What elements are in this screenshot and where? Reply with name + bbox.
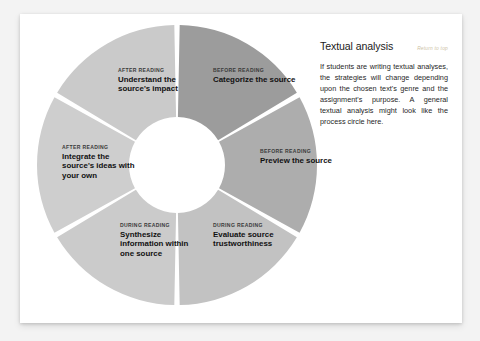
segment-kicker: AFTER READING [62,144,142,150]
textual-analysis-panel: Textual analysis Return to top If studen… [320,40,448,127]
segment-title: Preview the source [260,156,340,166]
content-card: AFTER READING Understand the source's im… [20,14,462,323]
process-circle-diagram: AFTER READING Understand the source's im… [36,24,318,306]
segment-kicker: BEFORE READING [213,67,299,73]
segment-label-evaluate[interactable]: DURING READING Evaluate source trustwort… [213,222,297,249]
page-root: AFTER READING Understand the source's im… [0,0,480,341]
segment-label-integrate[interactable]: AFTER READING Integrate the source's ide… [62,144,142,181]
segment-label-preview[interactable]: BEFORE READING Preview the source [260,148,340,165]
panel-body-text: If students are writing textual analyses… [320,61,448,127]
segment-label-synthesize[interactable]: DURING READING Synthesize information wi… [120,222,190,259]
segment-label-categorize[interactable]: BEFORE READING Categorize the source [213,67,299,84]
segment-kicker: DURING READING [213,222,297,228]
segment-kicker: AFTER READING [118,67,210,73]
segment-title: Integrate the source's ideas with your o… [62,152,142,182]
segment-title: Understand the source's impact [118,75,210,95]
panel-header: Textual analysis Return to top [320,40,448,52]
segment-label-understand[interactable]: AFTER READING Understand the source's im… [118,67,210,94]
return-to-top-link[interactable]: Return to top [417,46,448,51]
segment-kicker: DURING READING [120,222,190,228]
segment-title: Evaluate source trustworthiness [213,230,297,250]
segment-kicker: BEFORE READING [260,148,340,154]
page-title: Textual analysis [320,40,393,52]
segment-title: Synthesize information within one source [120,230,190,260]
segment-title: Categorize the source [213,75,299,85]
